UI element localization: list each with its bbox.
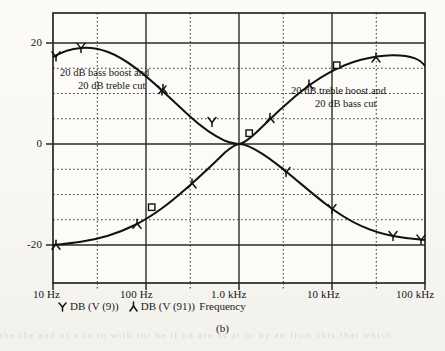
x-axis-title: Frequency [0, 300, 445, 312]
annotation-treble-boost: 20 dB treble boost and 20 dB bass cut [291, 84, 386, 110]
annotation-bass-boost: 20 dB bass boost and 20 dB treble cut [60, 66, 149, 92]
annotation-bass-boost-line2: 20 dB treble cut [60, 79, 149, 92]
annotation-bass-boost-line1: 20 dB bass boost and [60, 66, 149, 79]
x-tick-label-10khz: 10 kHz [307, 288, 340, 300]
x-tick-label-100hz: 100 Hz [120, 288, 153, 300]
figure-container: 20 0 -20 10 Hz 100 Hz 1.0 kHz 10 kHz 100… [0, 0, 445, 351]
y-tick-label-minus20: -20 [4, 238, 42, 250]
annotation-treble-boost-line1: 20 dB treble boost and [291, 84, 386, 97]
x-tick-label-10hz: 10 Hz [33, 288, 60, 300]
annotation-treble-boost-line2: 20 dB bass cut [291, 97, 386, 110]
y-axis-ticks [46, 43, 53, 245]
x-tick-label-100khz: 100 kHz [396, 288, 434, 300]
y-tick-label-0: 0 [8, 137, 42, 149]
x-tick-label-1khz: 1.0 kHz [211, 288, 247, 300]
page-bleed-through-text: the the and of a in to with for be it on… [0, 330, 445, 351]
y-tick-label-20: 20 [8, 36, 42, 48]
